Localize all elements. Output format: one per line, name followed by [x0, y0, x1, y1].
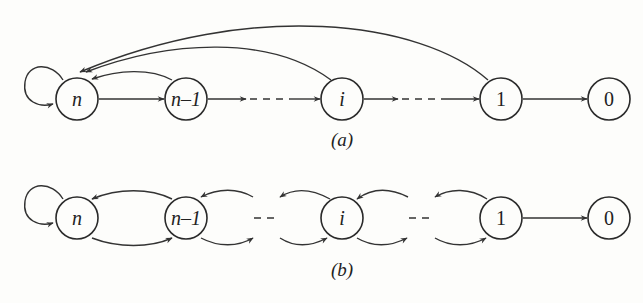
state-node-1: 1 [480, 197, 522, 239]
back-arc-i-to-n [86, 47, 331, 80]
state-label: n–1 [171, 207, 201, 229]
state-label: 1 [496, 88, 506, 110]
markov-chain-figure: n n–1 i 1 0 (a) [0, 0, 643, 303]
state-node-i: i [321, 78, 363, 120]
state-label: 0 [604, 88, 614, 110]
state-label: n [72, 207, 82, 229]
upper-arc-1-to-dash [435, 190, 487, 199]
lower-arc-n-to-n1 [92, 238, 172, 246]
caption-b: (b) [331, 259, 353, 281]
state-node-i: i [321, 197, 363, 239]
state-node-n-1: n–1 [165, 197, 207, 239]
caption-a: (a) [331, 129, 353, 151]
diagram-a: n n–1 i 1 0 (a) [25, 26, 630, 151]
lower-arc-dash-to-i [280, 238, 327, 245]
state-node-0: 0 [588, 78, 630, 120]
upper-arc-i-to-dash [280, 190, 330, 199]
upper-arc-dash-to-n1 [201, 190, 253, 197]
state-node-0: 0 [588, 197, 630, 239]
state-label: n–1 [171, 88, 201, 110]
state-node-1: 1 [480, 78, 522, 120]
state-node-n: n [56, 78, 98, 120]
lower-arc-dash-to-1 [435, 238, 486, 245]
diagram-b: n n–1 i 1 0 (b) [25, 186, 630, 281]
lower-arc-n1-to-dash [201, 238, 253, 245]
upper-arc-n1-to-n [92, 191, 172, 199]
lower-arc-i-to-dash [357, 238, 407, 245]
back-arc-n1-to-n [92, 72, 172, 80]
state-label: i [339, 207, 345, 229]
state-node-n: n [56, 197, 98, 239]
state-label: 1 [496, 207, 506, 229]
state-label: i [339, 88, 345, 110]
state-label: n [72, 88, 82, 110]
state-node-n-1: n–1 [165, 78, 207, 120]
state-label: 0 [604, 207, 614, 229]
upper-arc-dash-to-i [357, 190, 408, 199]
